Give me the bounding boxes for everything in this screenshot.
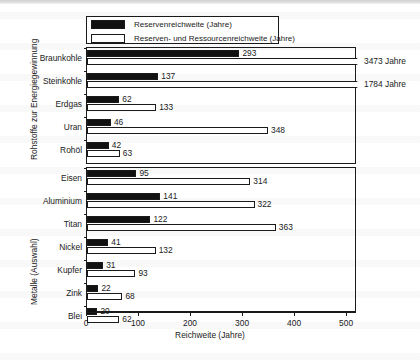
bar-reserve — [87, 193, 160, 200]
bar-resource — [87, 293, 122, 300]
bar-resource — [87, 316, 119, 323]
y-axis-tick — [84, 306, 87, 307]
y-axis-tick — [84, 191, 87, 192]
y-axis-tick — [84, 237, 87, 238]
category-label: Kupfer — [57, 265, 82, 275]
y-axis-title-metals: Metalle (Auswahl) — [29, 238, 39, 305]
x-axis-tick — [86, 312, 87, 316]
x-axis-tick — [138, 312, 139, 316]
x-axis: 0100200300400500 — [86, 312, 356, 313]
bar-reserve — [87, 119, 111, 126]
bar-reserve — [87, 73, 158, 80]
bar-reserve — [87, 96, 119, 103]
category-label: Nickel — [59, 242, 82, 252]
category-label: Zink — [66, 288, 82, 298]
bar-value-reserve: 141 — [163, 192, 177, 201]
bar-resource — [87, 270, 135, 277]
category-label: Eisen — [61, 173, 82, 183]
y-axis-tick — [84, 48, 87, 49]
bar-value-resource: 322 — [258, 200, 272, 209]
category-label: Braunkohle — [40, 53, 82, 63]
x-axis-tick-label: 100 — [131, 318, 145, 328]
bar-resource-broken — [87, 81, 357, 88]
x-axis-tick-label: 400 — [287, 318, 301, 328]
panel-energy-resources: Braunkohle2933473 JahreSteinkohle1371784… — [86, 47, 356, 164]
bar-reserve — [87, 50, 239, 57]
bar-resource — [87, 150, 120, 157]
legend-label-reserve: Reservenreichweite (Jahre) — [134, 20, 232, 29]
bar-resource — [87, 178, 250, 185]
bar-resource — [87, 224, 276, 231]
bar-resource — [87, 201, 255, 208]
x-axis-tick-label: 300 — [235, 318, 249, 328]
bar-value-resource-outside: 1784 Jahre — [364, 80, 406, 89]
x-axis-tick — [190, 312, 191, 316]
bar-value-reserve: 46 — [114, 118, 123, 127]
bar-value-resource: 93 — [138, 269, 147, 278]
bar-resource — [87, 247, 156, 254]
category-label: Erdgas — [55, 99, 82, 109]
bar-value-resource: 363 — [279, 223, 293, 232]
y-axis-tick — [84, 94, 87, 95]
bar-reserve — [87, 239, 108, 246]
y-axis-tick — [84, 71, 87, 72]
y-axis-title-energy: Rohstoffe zur Energiegewinnung — [29, 39, 39, 160]
x-axis-label: Reichweite (Jahre) — [0, 330, 420, 340]
bar-value-resource: 68 — [125, 292, 134, 301]
x-axis-tick — [294, 312, 295, 316]
bar-value-resource-outside: 3473 Jahre — [364, 57, 406, 66]
bar-value-reserve: 41 — [111, 238, 120, 247]
category-label: Rohöl — [60, 145, 82, 155]
bar-chart-figure: Reservenreichweite (Jahre) Reserven- und… — [0, 0, 420, 363]
bar-reserve — [87, 170, 136, 177]
y-axis-tick — [84, 140, 87, 141]
legend-label-resource: Reserven- und Ressourcenreichweite (Jahr… — [134, 34, 295, 43]
x-axis-tick — [346, 312, 347, 316]
y-axis-tick — [84, 117, 87, 118]
category-label: Blei — [68, 311, 82, 321]
legend-item-reserve: Reservenreichweite (Jahre) — [87, 18, 278, 31]
bar-value-reserve: 31 — [106, 261, 115, 270]
bar-value-resource: 133 — [159, 103, 173, 112]
bar-reserve — [87, 285, 98, 292]
x-axis-tick-label: 200 — [183, 318, 197, 328]
legend-item-resource: Reserven- und Ressourcenreichweite (Jahr… — [87, 32, 278, 45]
x-axis-tick-label: 500 — [339, 318, 353, 328]
bar-value-resource: 314 — [253, 177, 267, 186]
bar-value-reserve: 293 — [242, 49, 256, 58]
bar-value-reserve: 42 — [112, 141, 121, 150]
bar-value-reserve: 95 — [139, 169, 148, 178]
legend-swatch-resource-icon — [91, 34, 125, 43]
chart-legend: Reservenreichweite (Jahre) Reserven- und… — [86, 16, 279, 44]
x-axis-tick — [242, 312, 243, 316]
legend-swatch-reserve-icon — [91, 20, 125, 29]
category-label: Steinkohle — [43, 76, 82, 86]
panel-metals: Eisen95314Aluminium141322Titan122363Nick… — [86, 167, 356, 312]
bar-reserve — [87, 262, 103, 269]
y-axis-tick — [84, 283, 87, 284]
bar-reserve — [87, 216, 150, 223]
bar-resource — [87, 127, 268, 134]
bar-value-reserve: 137 — [161, 72, 175, 81]
bar-resource — [87, 104, 156, 111]
y-axis-tick — [84, 168, 87, 169]
bar-value-reserve: 22 — [101, 284, 110, 293]
bar-value-resource: 348 — [271, 126, 285, 135]
x-axis-tick-label: 0 — [84, 318, 89, 328]
bar-value-resource: 132 — [159, 246, 173, 255]
bar-reserve — [87, 142, 109, 149]
bar-value-reserve: 62 — [122, 95, 131, 104]
bar-value-reserve: 122 — [153, 215, 167, 224]
category-label: Aluminium — [43, 196, 82, 206]
y-axis-tick — [84, 260, 87, 261]
bar-resource-broken — [87, 58, 357, 65]
category-label: Uran — [64, 122, 82, 132]
bar-value-resource: 63 — [123, 149, 132, 158]
category-label: Titan — [64, 219, 82, 229]
y-axis-tick — [84, 214, 87, 215]
